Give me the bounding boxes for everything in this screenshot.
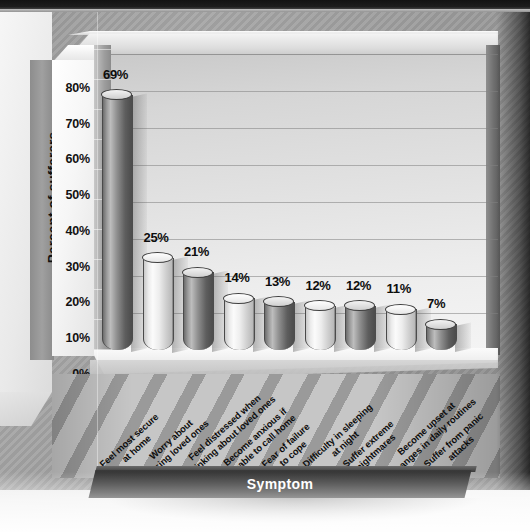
bar-value-label: 12% <box>346 278 371 293</box>
bar-value-label: 7% <box>427 296 445 311</box>
vertical-guide-line <box>97 12 98 478</box>
bar <box>386 309 415 350</box>
bar <box>224 298 253 350</box>
bar-value-label: 21% <box>184 244 209 259</box>
y-axis-tick-label: 40% <box>50 225 90 237</box>
bar-value-label: 69% <box>103 67 128 82</box>
bar <box>426 324 455 350</box>
bar-top-ellipse <box>385 304 416 315</box>
bar-value-label: 13% <box>265 274 290 289</box>
bar-body <box>305 306 336 350</box>
bar <box>102 95 131 350</box>
bars-container: 69%25%21%14%13%12%12%11%7% <box>90 54 498 350</box>
bar-body <box>386 309 417 350</box>
right-edge-shading <box>496 12 530 490</box>
bar-body <box>264 302 295 350</box>
bar-value-label: 11% <box>387 281 411 296</box>
bar-top-ellipse <box>142 252 173 263</box>
bar <box>305 306 334 350</box>
bar <box>264 302 293 350</box>
bar-body <box>345 306 376 350</box>
y-axis-tick-label: 30% <box>50 261 90 273</box>
y-axis-tick-label: 70% <box>50 118 90 130</box>
bar <box>143 258 172 351</box>
bar-value-label: 25% <box>144 230 169 245</box>
bar-body <box>102 95 133 350</box>
y-axis-tick-labels: 80%70%60%50%40%30%20%10%0% <box>52 60 94 356</box>
y-axis-tick-label: 80% <box>50 82 90 94</box>
y-axis-title-band: Percent of sufferers <box>30 60 54 360</box>
y-axis-tick-label: 60% <box>50 153 90 165</box>
bar <box>345 306 374 350</box>
bar-shadow <box>455 323 471 352</box>
bar-value-label: 12% <box>306 278 331 293</box>
bar-top-ellipse <box>182 267 213 278</box>
y-axis-tick-label: 10% <box>50 332 90 344</box>
bar-top-ellipse <box>425 319 456 330</box>
bar-body <box>183 272 214 350</box>
category-labels-zone: Feel most secure at homeWorry about losi… <box>52 374 500 478</box>
bottom-edge-shading <box>0 472 530 532</box>
bar-body <box>224 298 255 350</box>
bar-top-ellipse <box>304 300 335 311</box>
bar-body <box>143 258 174 351</box>
bar <box>183 272 212 350</box>
chart-figure: Percent of sufferers 80%70%60%50%40%30%2… <box>0 0 530 532</box>
y-axis-tick-label: 50% <box>50 189 90 201</box>
y-axis-tick-label: 20% <box>50 296 90 308</box>
bar-top-ellipse <box>223 293 254 304</box>
bar-value-label: 14% <box>225 270 250 285</box>
